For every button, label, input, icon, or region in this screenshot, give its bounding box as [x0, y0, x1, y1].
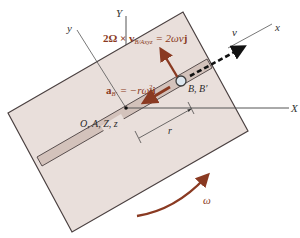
centripetal-rhs: = −rω [120, 84, 150, 96]
inertial-x-label: X [291, 103, 298, 114]
coriolis-lhs: 2Ω × v [103, 32, 135, 44]
origin-point [124, 106, 128, 110]
omega-label: ω [203, 195, 211, 206]
radius-label: r [168, 126, 172, 136]
centripetal-unit-vector: i [153, 84, 156, 96]
rotating-y-label: y [67, 23, 72, 34]
inertial-y-label: Y [116, 8, 122, 19]
diagram-stage: Y y x X 2Ω × vB/Axyz = 2ωvj aB′ = −rω2i … [0, 0, 300, 238]
ball-b [176, 76, 186, 86]
point-b-label: B, B′ [188, 84, 207, 94]
centripetal-equation: aB′ = −rω2i [106, 84, 156, 97]
coriolis-equation: 2Ω × vB/Axyz = 2ωvj [103, 33, 187, 46]
centripetal-subscript: B′ [112, 90, 117, 97]
velocity-label: v [232, 27, 237, 38]
rotating-x-label: x [275, 22, 280, 33]
coriolis-unit-vector: j [184, 32, 188, 44]
coriolis-subscript: B/Axyz [135, 38, 153, 45]
coriolis-rhs: = 2ωv [155, 32, 183, 44]
origin-label: O, A, Z, z [80, 119, 118, 129]
